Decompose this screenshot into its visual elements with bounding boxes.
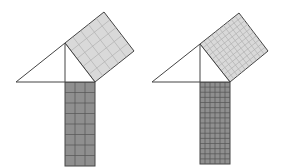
right-figure	[152, 13, 268, 164]
left-figure	[16, 12, 134, 166]
pythagorean-diagram	[0, 0, 284, 168]
